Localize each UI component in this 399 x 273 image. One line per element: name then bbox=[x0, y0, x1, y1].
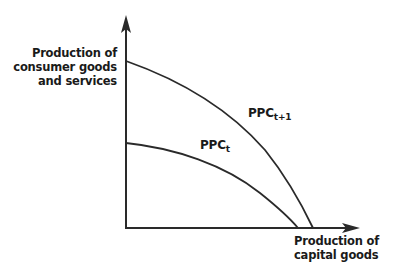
y-axis-label-line-2: consumer goods bbox=[13, 60, 117, 74]
x-axis-label-line-2: capital goods bbox=[294, 248, 379, 262]
ppc-t-label-sub: t bbox=[226, 144, 230, 154]
ppc-diagram bbox=[0, 0, 399, 273]
ppc-t-label: PPCt bbox=[200, 138, 230, 156]
y-axis-label-line-3: and services bbox=[13, 74, 117, 88]
ppc-t-label-main: PPC bbox=[200, 138, 226, 152]
ppc-t1-label-sub: t+1 bbox=[274, 112, 292, 122]
y-axis-label: Production of consumer goods and service… bbox=[13, 46, 117, 88]
x-axis-label-line-1: Production of bbox=[294, 234, 379, 248]
y-axis-label-line-1: Production of bbox=[13, 46, 117, 60]
ppc-t1-label-main: PPC bbox=[248, 106, 274, 120]
ppc-t1-label: PPCt+1 bbox=[248, 106, 291, 124]
x-axis-label: Production of capital goods bbox=[294, 234, 379, 262]
